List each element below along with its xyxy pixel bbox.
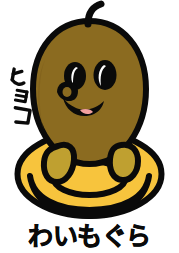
right-eye-pupil [94, 60, 117, 90]
caption-text: わいもぐら [28, 224, 151, 249]
illustration-card: わいもぐら [0, 0, 179, 253]
left-paw-shape [44, 145, 74, 182]
right-paw-shape [110, 145, 138, 180]
left-paw [44, 145, 74, 182]
snout-nostril [63, 87, 72, 97]
right-paw [110, 145, 138, 180]
mascot-illustration [0, 0, 179, 253]
caption-row: わいもぐら [0, 224, 179, 249]
right-eye [94, 60, 117, 90]
